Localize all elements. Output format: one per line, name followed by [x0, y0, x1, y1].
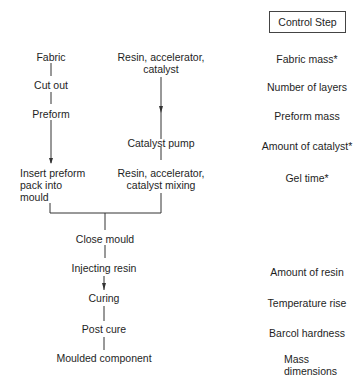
node-fabric: Fabric: [36, 51, 65, 63]
control-gel-time: Gel time*: [285, 172, 328, 184]
control-temperature-rise: Temperature rise: [268, 297, 347, 309]
control-preform-mass: Preform mass: [274, 110, 339, 122]
node-resin-mixing: Resin, accelerator, catalyst mixing: [118, 167, 205, 191]
arrow-down-icon: [159, 106, 163, 113]
node-resin-inputs: Resin, accelerator, catalyst: [118, 51, 205, 75]
node-injecting-resin: Injecting resin: [72, 262, 137, 274]
control-step-title: Control Step: [278, 16, 336, 28]
control-amount-of-resin: Amount of resin: [270, 266, 344, 278]
arrow-down-icon: [102, 283, 106, 290]
control-fabric-mass: Fabric mass*: [276, 53, 337, 65]
node-insert-preform: Insert preform pack into mould: [20, 167, 85, 203]
node-catalyst-pump: Catalyst pump: [127, 137, 194, 149]
control-mass-dimensions: Mass dimensions: [284, 353, 337, 377]
control-number-of-layers: Number of layers: [267, 81, 347, 93]
node-cut-out: Cut out: [34, 79, 68, 91]
node-post-cure: Post cure: [82, 323, 126, 335]
node-close-mould: Close mould: [76, 233, 134, 245]
node-moulded-component: Moulded component: [56, 352, 151, 364]
control-step-header-box: Control Step: [269, 11, 346, 33]
node-preform: Preform: [32, 108, 69, 120]
control-amount-of-catalyst: Amount of catalyst*: [262, 140, 352, 152]
control-barcol-hardness: Barcol hardness: [269, 327, 345, 339]
node-curing: Curing: [89, 292, 120, 304]
arrow-down-icon: [49, 158, 53, 164]
